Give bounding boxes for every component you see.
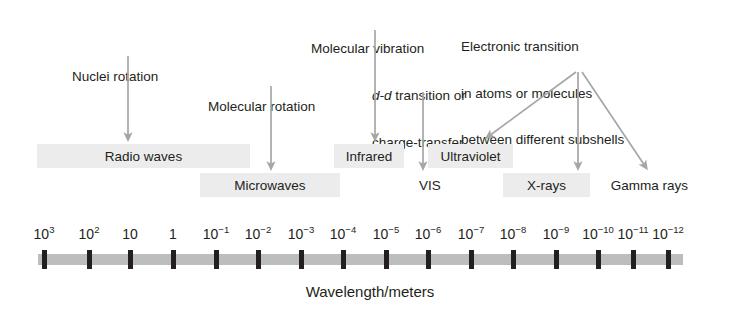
axis-tick bbox=[42, 250, 47, 269]
band-ultraviolet: Ultraviolet bbox=[428, 144, 513, 168]
band-label: Radio waves bbox=[105, 149, 182, 164]
axis-tick-label: 10−12 bbox=[652, 226, 684, 242]
axis-tick bbox=[469, 250, 474, 269]
band-infrared: Infrared bbox=[334, 144, 404, 168]
axis-tick-label: 10−8 bbox=[500, 226, 526, 242]
band-vis: VIS bbox=[409, 173, 451, 197]
annotation-line: d-d transition or bbox=[372, 88, 466, 104]
band-label: VIS bbox=[419, 178, 441, 193]
axis-tick bbox=[256, 250, 261, 269]
axis-tick-label: 10−5 bbox=[373, 226, 399, 242]
axis-tick bbox=[631, 250, 636, 269]
band-label: Microwaves bbox=[234, 178, 305, 193]
axis-tick-label: 10−3 bbox=[288, 226, 314, 242]
band-gamma-rays: Gamma rays bbox=[598, 173, 701, 197]
band-label: Ultraviolet bbox=[440, 149, 500, 164]
axis-tick bbox=[87, 250, 92, 269]
axis-tick-label: 10 bbox=[122, 226, 138, 242]
axis-tick bbox=[214, 250, 219, 269]
wavelength-axis-bar bbox=[38, 254, 683, 265]
electromagnetic-spectrum-diagram: Nuclei rotation Molecular rotation Molec… bbox=[0, 0, 739, 315]
axis-tick bbox=[596, 250, 601, 269]
annotation-line: Molecular vibration bbox=[311, 41, 424, 57]
axis-tick-label: 10−1 bbox=[203, 226, 229, 242]
axis-tick-label: 10−4 bbox=[330, 226, 356, 242]
band-x-rays: X-rays bbox=[503, 173, 590, 197]
annotation-nuclei-rotation: Nuclei rotation bbox=[72, 38, 158, 116]
annotation-line: in atoms or molecules bbox=[461, 86, 624, 102]
axis-tick-label: 102 bbox=[79, 226, 100, 242]
annotation-line: Molecular rotation bbox=[208, 99, 315, 115]
annotation-line: Nuclei rotation bbox=[72, 69, 158, 85]
axis-caption: Wavelength/meters bbox=[306, 283, 435, 300]
band-microwaves: Microwaves bbox=[200, 173, 340, 197]
axis-tick bbox=[384, 250, 389, 269]
axis-tick bbox=[299, 250, 304, 269]
axis-tick bbox=[426, 250, 431, 269]
annotation-line: Electronic transition bbox=[461, 39, 624, 55]
axis-tick bbox=[666, 250, 671, 269]
axis-tick-label: 10−7 bbox=[458, 226, 484, 242]
band-radio-waves: Radio waves bbox=[37, 144, 250, 168]
annotation-molecular-rotation: Molecular rotation bbox=[208, 68, 315, 146]
dd-italic: d-d bbox=[372, 88, 392, 103]
axis-tick-label: 10−2 bbox=[245, 226, 271, 242]
axis-tick-label: 10−9 bbox=[543, 226, 569, 242]
dd-rest: transition or bbox=[392, 88, 466, 103]
axis-tick-label: 103 bbox=[34, 226, 55, 242]
axis-tick bbox=[171, 250, 176, 269]
axis-tick bbox=[511, 250, 516, 269]
axis-tick-label: 10−6 bbox=[415, 226, 441, 242]
band-label: Infrared bbox=[346, 149, 393, 164]
axis-tick bbox=[341, 250, 346, 269]
band-label: X-rays bbox=[527, 178, 566, 193]
band-label: Gamma rays bbox=[611, 178, 688, 193]
axis-tick bbox=[554, 250, 559, 269]
axis-tick-label: 1 bbox=[169, 226, 177, 242]
axis-tick-label: 10−10 bbox=[582, 226, 614, 242]
axis-tick-label: 10−11 bbox=[618, 226, 649, 242]
axis-tick bbox=[128, 250, 133, 269]
